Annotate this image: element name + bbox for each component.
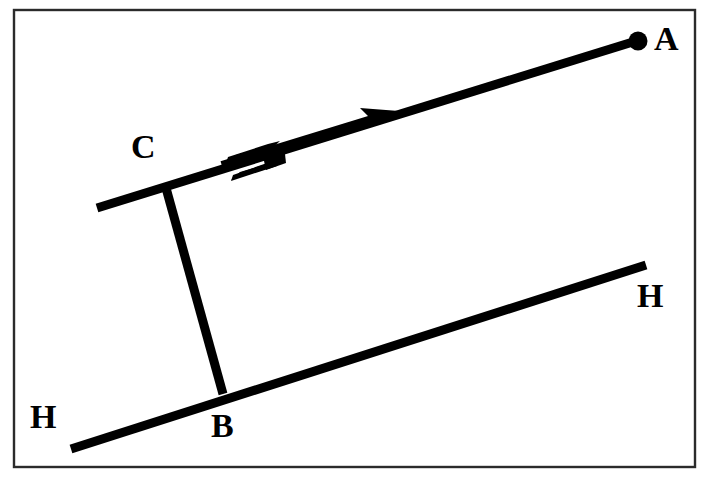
line-hbh (71, 265, 646, 449)
vertex-label-a: A (654, 22, 679, 56)
point-a-dot (629, 32, 648, 51)
frame-border (14, 10, 695, 467)
diagram-canvas: A C B H H (0, 0, 707, 479)
diagram-vector-layer (0, 0, 707, 479)
vertex-label-h-right: H (637, 279, 663, 313)
vertex-label-b: B (211, 409, 234, 443)
vertex-label-h-left: H (30, 400, 56, 434)
vertex-label-c: C (131, 130, 156, 164)
arrow-shaft (222, 120, 372, 166)
line-cb (166, 188, 223, 394)
